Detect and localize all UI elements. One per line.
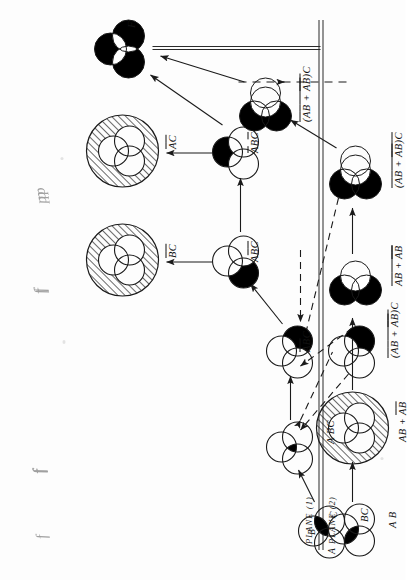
lp-bbar3: B [392,143,403,150]
label-part-b: B [396,428,407,435]
label-bbarcbar: BC [166,244,177,258]
venn-node-abc[interactable] [266,416,320,476]
venn-node-abarbbarc[interactable] [266,320,320,380]
label-abarbbarc: ABC [300,331,311,352]
lp-c3: C [392,132,403,139]
label-part-a: A [248,255,259,262]
label-output-f: F [124,21,136,28]
paper-speck [380,457,383,460]
lp-abar: A [388,320,399,327]
output-stem [152,49,320,50]
label-group-partial-bar: (AB + AB) [300,74,311,122]
label-part-cbar: C [248,241,259,248]
lp-b3: B [392,170,403,177]
label-group-full-bar: (AB + AB)C [392,132,403,188]
lp-a3: A [392,177,403,184]
lp-abar4: A [300,84,311,91]
label-part-a: A [396,435,407,442]
label-abarcbar: ABC [248,241,259,262]
venn-node-output-f[interactable] [92,16,154,82]
label-plus: + [396,418,407,426]
label-part-bbar: B [300,338,311,345]
label-part-bbar: B [166,251,177,258]
lp-abar3: A [392,150,403,157]
label-part-cbar: C [166,135,177,142]
label-ab-abarbbar-c-bar: (AB + AB)C [392,132,403,188]
lp-bbar: B [388,313,399,320]
dynamic-mark-ppp: ppp [31,189,50,205]
label-part-abar: A [166,142,177,149]
label-ab-plus-abarbbar-bar: AB + AB [392,245,403,286]
label-abarcbar-2: AC [166,135,177,149]
paper-speck [62,340,65,344]
lp-b4: B [300,104,311,111]
label-part-cbar: C [166,244,177,251]
lp-abar2: A [392,252,403,259]
paper-speck [60,157,63,160]
label-group-ab-plus-abarbbar: (AB + AB) [388,310,399,358]
lp-bbar2: B [392,245,403,252]
venn-node-ab[interactable] [328,498,382,558]
label-part-abar: A [396,408,407,415]
plane-2-rule [322,20,323,550]
label-abbarc-mid: (AB + AB)C [388,302,399,358]
output-stem-2 [152,46,320,47]
venn-node-ab-abarbbar-c[interactable] [236,76,294,138]
venn-node-abbarc-mid[interactable] [328,320,382,380]
venn-node-ab-plus-abarbbar[interactable] [314,390,390,466]
lp-a: A [388,347,399,354]
venn-node-abarcbar-hatched[interactable] [84,113,160,189]
label-part-c: C [300,331,311,338]
label-part-bbar: B [248,248,259,255]
lp-bbar4: B [300,77,311,84]
venn-node-ab-abarbbar-c-bar[interactable] [326,144,384,206]
lp-b2: B [392,272,403,279]
label-ab: A B [386,512,397,528]
label-group-complement: AB + AB [392,245,403,286]
lp-c: C [388,302,399,309]
label-part-b: B [248,139,259,146]
venn-letter-b: B [306,529,316,535]
venn-node-ab-plus-abarbbar-bar[interactable] [326,252,384,312]
label-ab-plus-abarbbar: AB + AB [396,401,407,442]
label-ab-abarbbar-c: (AB + AB)C [300,66,311,122]
lp-a4: A [300,111,311,118]
venn-node-bbarcbar-hatched[interactable] [84,222,160,298]
lp-a2: A [392,279,403,286]
label-part-abar: A [300,345,311,352]
label-part-bbar: B [396,401,407,408]
lp-b: B [388,340,399,347]
label-part-abar: A [248,146,259,153]
lp-c4: C [300,66,311,73]
